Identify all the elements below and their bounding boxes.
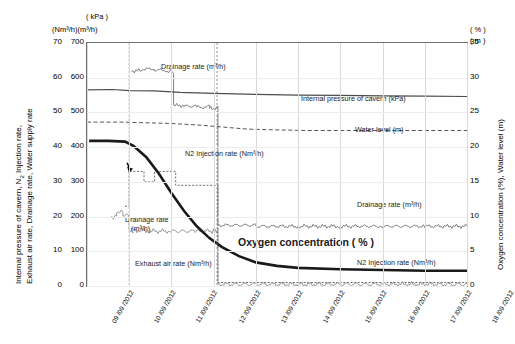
ticks-right-label: 35: [470, 37, 479, 46]
x-tick-label: 11 /09 /2012: [195, 289, 219, 324]
ticks-kpa-label: 0: [40, 280, 62, 289]
gridline-horizontal: [87, 78, 467, 79]
label-internal-pressure: Internal pressure of cavern (kPa): [301, 94, 406, 103]
ticks-kpa-label: 50: [40, 106, 62, 115]
left-axis-title-part1: Internal pressure of cavern, N: [14, 179, 23, 284]
ticks-kpa-label: 20: [40, 211, 62, 220]
left-axis-title-line1: Internal pressure of cavern, N2 Injectio…: [14, 125, 25, 284]
left-axis-title-sub: 2: [19, 175, 25, 178]
x-tick-label: 17 /09 /2012: [448, 289, 472, 324]
ticks-right-label: 20: [470, 141, 479, 150]
gridline-vertical: [340, 43, 341, 286]
right-axis-title: Oxygen concentration (%), Water level (m…: [496, 119, 505, 270]
ticks-kpa-label: 70: [40, 37, 62, 46]
ticks-right-label: 0: [470, 280, 474, 289]
ticks-flow-label: 500: [62, 106, 84, 115]
gridline-vertical: [467, 43, 468, 286]
plot-area: Drainage rate (m³/h)Internal pressure of…: [86, 42, 468, 287]
ticks-flow-label: 200: [62, 211, 84, 220]
x-tick-label: 10 /09 /2012: [153, 289, 177, 324]
left-axis-title-line2: Exhaust air rate, Drainage rate, Water s…: [25, 108, 34, 284]
chart-root: ( kPa ) (Nm³/h)(m³/h) ( % ) ( m ) Intern…: [0, 0, 515, 344]
gridline-vertical: [171, 43, 172, 286]
x-tick-label: 09 /09 /2012: [110, 289, 134, 324]
ticks-flow-label: 400: [62, 141, 84, 150]
ticks-flow-label: 300: [62, 176, 84, 185]
series-canvas: [87, 43, 467, 286]
gridline-vertical: [87, 43, 88, 286]
left-axis-title-part2: Injection rate,: [14, 125, 23, 175]
gridline-vertical: [383, 43, 384, 286]
ticks-right-label: 10: [470, 211, 479, 220]
gridline-horizontal: [87, 112, 467, 113]
ticks-kpa-label: 60: [40, 72, 62, 81]
x-tick-label: 18 /09 /2012: [490, 289, 514, 324]
gridline-vertical: [214, 43, 215, 286]
left-unit-flow: (Nm³/h)(m³/h): [52, 25, 97, 34]
ticks-right-label: 15: [470, 176, 479, 185]
ticks-right-label: 30: [470, 72, 479, 81]
gridline-vertical: [298, 43, 299, 286]
ticks-flow-label: 600: [62, 72, 84, 81]
right-unit-percent: ( % ): [470, 25, 486, 34]
label-drainage-rate-left-2: (m³/h): [131, 224, 150, 233]
ticks-flow-label: 700: [62, 37, 84, 46]
gridline-vertical: [425, 43, 426, 286]
ticks-right-label: 25: [470, 106, 479, 115]
label-n2-injection-mid: N2 Injection rate (Nm³/h): [185, 149, 264, 158]
gridline-horizontal: [87, 147, 467, 148]
gridline-horizontal: [87, 286, 467, 287]
label-water-level: Water level (m): [355, 125, 403, 134]
x-tick-label: 12 /09 /2012: [237, 289, 261, 324]
ticks-flow-label: 0: [62, 280, 84, 289]
ticks-kpa-label: 30: [40, 176, 62, 185]
ticks-right-label: 5: [470, 245, 474, 254]
ticks-flow-label: 100: [62, 245, 84, 254]
gridline-vertical: [129, 43, 130, 286]
label-exhaust-air-rate: Exhaust air rate (Nm³/h): [135, 259, 212, 268]
left-unit-kpa: ( kPa ): [86, 12, 108, 21]
x-tick-label: 15 /09 /2012: [364, 289, 388, 324]
gridline-horizontal: [87, 182, 467, 183]
label-drainage-rate-right: Drainage rate (m³/h): [357, 200, 422, 209]
ticks-kpa-label: 10: [40, 245, 62, 254]
label-oxygen-concentration: Oxygen concentration ( % ): [238, 236, 374, 248]
x-tick-label: 16 /09 /2012: [406, 289, 430, 324]
gridline-horizontal: [87, 217, 467, 218]
gridline-horizontal: [87, 251, 467, 252]
x-tick-label: 14 /09 /2012: [321, 289, 345, 324]
ticks-kpa-label: 40: [40, 141, 62, 150]
x-tick-label: 13 /09 /2012: [279, 289, 303, 324]
gridline-vertical: [256, 43, 257, 286]
